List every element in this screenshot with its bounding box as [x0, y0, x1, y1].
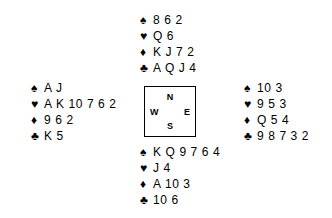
hand-north-spades-row: ♠ 8 6 2 — [140, 12, 197, 28]
hand-east-spades-row: ♠ 10 3 — [244, 80, 309, 96]
spade-icon: ♠ — [244, 80, 257, 96]
club-icon: ♣ — [140, 192, 153, 208]
spade-icon: ♠ — [31, 80, 44, 96]
hand-east-diamonds-row: ♦ Q 5 4 — [244, 112, 309, 128]
hand-south-hearts: J 4 — [153, 160, 171, 176]
hand-north-diamonds: K J 7 2 — [153, 44, 195, 60]
hand-north-clubs: A Q J 4 — [153, 60, 197, 76]
heart-icon: ♥ — [140, 160, 153, 176]
compass-label-east: E — [184, 107, 190, 117]
hand-west-diamonds-row: ♦ 9 6 2 — [31, 112, 117, 128]
spade-icon: ♠ — [140, 144, 153, 160]
heart-icon: ♥ — [31, 96, 44, 112]
club-icon: ♣ — [244, 128, 257, 144]
hand-west-hearts: A K 10 7 6 2 — [44, 96, 117, 112]
hand-south-spades-row: ♠ K Q 9 7 6 4 — [140, 144, 220, 160]
hand-north-hearts-row: ♥ Q 6 — [140, 28, 197, 44]
compass-label-south: S — [145, 121, 195, 131]
hand-south-diamonds-row: ♦ A 10 3 — [140, 176, 220, 192]
compass-label-north: N — [145, 92, 195, 102]
hand-south-diamonds: A 10 3 — [153, 176, 191, 192]
hand-east-clubs-row: ♣ 9 8 7 3 2 — [244, 128, 309, 144]
hand-east: ♠ 10 3 ♥ 9 5 3 ♦ Q 5 4 ♣ 9 8 7 3 2 — [244, 80, 309, 144]
diamond-icon: ♦ — [31, 112, 44, 128]
hand-east-spades: 10 3 — [257, 80, 283, 96]
hand-north: ♠ 8 6 2 ♥ Q 6 ♦ K J 7 2 ♣ A Q J 4 — [140, 12, 197, 76]
hand-south-spades: K Q 9 7 6 4 — [153, 144, 220, 160]
club-icon: ♣ — [140, 60, 153, 76]
hand-west-diamonds: 9 6 2 — [44, 112, 74, 128]
hand-south-hearts-row: ♥ J 4 — [140, 160, 220, 176]
hand-east-diamonds: Q 5 4 — [257, 112, 289, 128]
hand-east-hearts-row: ♥ 9 5 3 — [244, 96, 309, 112]
heart-icon: ♥ — [140, 28, 153, 44]
hand-west: ♠ A J ♥ A K 10 7 6 2 ♦ 9 6 2 ♣ K 5 — [31, 80, 117, 144]
hand-west-spades: A J — [44, 80, 62, 96]
hand-east-clubs: 9 8 7 3 2 — [257, 128, 309, 144]
hand-west-spades-row: ♠ A J — [31, 80, 117, 96]
compass-box: N W E S — [144, 86, 196, 137]
bridge-deal-diagram: ♠ 8 6 2 ♥ Q 6 ♦ K J 7 2 ♣ A Q J 4 ♠ A J … — [0, 0, 332, 218]
hand-south: ♠ K Q 9 7 6 4 ♥ J 4 ♦ A 10 3 ♣ 10 6 — [140, 144, 220, 208]
hand-west-clubs: K 5 — [44, 128, 64, 144]
hand-west-hearts-row: ♥ A K 10 7 6 2 — [31, 96, 117, 112]
hand-north-hearts: Q 6 — [153, 28, 174, 44]
hand-south-clubs-row: ♣ 10 6 — [140, 192, 220, 208]
hand-north-clubs-row: ♣ A Q J 4 — [140, 60, 197, 76]
spade-icon: ♠ — [140, 12, 153, 28]
hand-south-clubs: 10 6 — [153, 192, 179, 208]
hand-north-spades: 8 6 2 — [153, 12, 183, 28]
diamond-icon: ♦ — [140, 44, 153, 60]
hand-west-clubs-row: ♣ K 5 — [31, 128, 117, 144]
heart-icon: ♥ — [244, 96, 257, 112]
compass-label-west: W — [150, 107, 159, 117]
hand-north-diamonds-row: ♦ K J 7 2 — [140, 44, 197, 60]
club-icon: ♣ — [31, 128, 44, 144]
diamond-icon: ♦ — [244, 112, 257, 128]
diamond-icon: ♦ — [140, 176, 153, 192]
hand-east-hearts: 9 5 3 — [257, 96, 287, 112]
